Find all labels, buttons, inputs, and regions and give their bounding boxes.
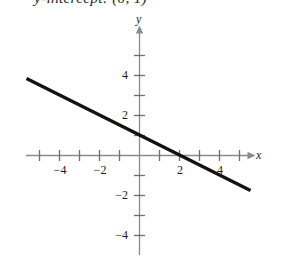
y-tick-label-minus4: −4 xyxy=(110,228,128,243)
x-tick-label-minus2: −2 xyxy=(92,163,108,178)
y-tick-label-minus2: −2 xyxy=(110,188,128,203)
x-tick-label-4: 4 xyxy=(215,163,225,178)
y-axis-label: y xyxy=(136,12,141,27)
y-tick-label-2: 2 xyxy=(118,108,128,123)
x-axis-label: x xyxy=(256,148,261,163)
y-tick-label-4: 4 xyxy=(118,68,128,83)
x-axis xyxy=(26,150,248,161)
figure-container: y-intercept: (0, 1) xyxy=(0,0,284,271)
coordinate-plane-graph xyxy=(0,0,284,271)
y-axis xyxy=(134,33,145,255)
x-tick-label-minus4: −4 xyxy=(52,163,68,178)
x-tick-label-2: 2 xyxy=(175,163,185,178)
